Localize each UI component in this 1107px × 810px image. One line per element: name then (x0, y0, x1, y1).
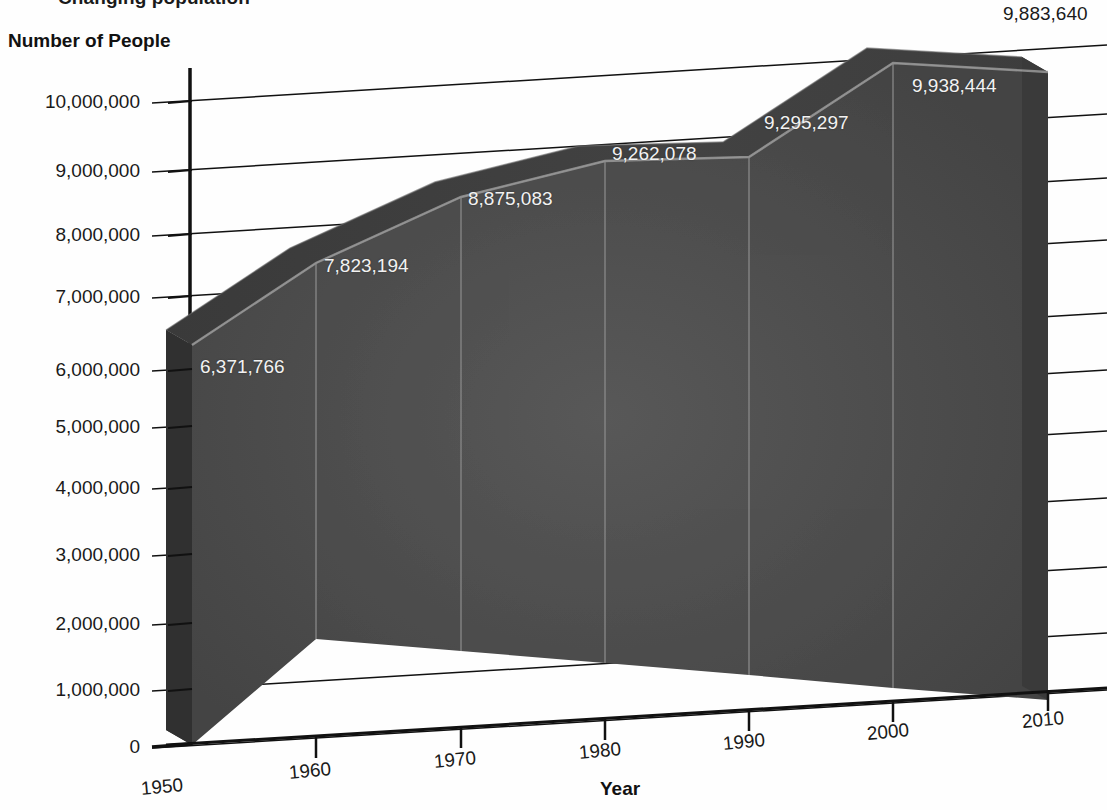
area-left-slab (166, 330, 192, 745)
y-tick-label: 6,000,000 (55, 359, 140, 381)
x-axis-line (166, 688, 1107, 745)
y-tick-label: 1,000,000 (55, 679, 140, 701)
y-tick-label: 10,000,000 (45, 91, 140, 113)
y-tick-label: 3,000,000 (55, 544, 140, 566)
data-label-2010: 9,883,640 (1003, 3, 1088, 25)
x-axis-title: Year (600, 778, 640, 800)
y-tick-label: 9,000,000 (55, 160, 140, 182)
y-tick-label: 8,000,000 (55, 224, 140, 246)
data-label-1980: 9,262,078 (612, 143, 697, 165)
chart-canvas: Changing population (0, 0, 1107, 810)
x-tick-label-2000: 2000 (866, 719, 910, 745)
y-tick-label-group: 10,000,000 9,000,000 8,000,000 7,000,000… (0, 0, 152, 810)
x-tick-label-1990: 1990 (722, 729, 766, 755)
data-label-2000: 9,938,444 (912, 75, 997, 97)
y-tick-label: 7,000,000 (55, 286, 140, 308)
data-label-1950: 6,371,766 (200, 356, 285, 378)
y-tick-label: 4,000,000 (55, 477, 140, 499)
y-tick-label: 0 (129, 736, 140, 758)
area-right-face (1022, 57, 1048, 700)
area-chart-svg (0, 0, 1107, 810)
x-tick-label-1980: 1980 (578, 738, 622, 764)
area-front-face (192, 63, 1048, 745)
x-tick-label-1960: 1960 (288, 758, 332, 784)
data-label-1960: 7,823,194 (324, 255, 409, 277)
data-label-1970: 8,875,083 (468, 188, 553, 210)
x-tick-label-1950: 1950 (140, 774, 184, 800)
x-tick-label-2010: 2010 (1021, 707, 1065, 733)
y-tick-label: 2,000,000 (55, 613, 140, 635)
x-tick-label-1970: 1970 (433, 747, 477, 773)
y-tick-label: 5,000,000 (55, 416, 140, 438)
data-label-1990: 9,295,297 (764, 112, 849, 134)
